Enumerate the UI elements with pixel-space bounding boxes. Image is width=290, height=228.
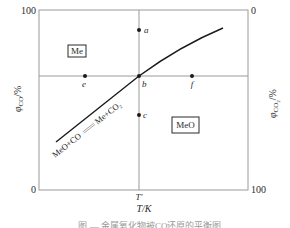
figure-caption: 图 — 金属氧化物被CO还原的平衡图 <box>78 220 221 228</box>
point-f-marker <box>190 74 194 78</box>
diagram-canvas: 100 0 0 100 φCO/% φCO2/% T′ T/K Me MeO a… <box>0 0 290 228</box>
plot-frame <box>39 10 248 190</box>
point-b-label: b <box>142 79 147 89</box>
equilibrium-sign-2 <box>84 125 95 134</box>
region-meo-label: MeO <box>176 120 195 130</box>
left-axis-bottom-label: 0 <box>31 184 36 195</box>
region-me-label: Me <box>71 46 83 56</box>
svg-text:φCO2/%: φCO2/% <box>267 89 281 118</box>
reaction-equation-label: MeO+CO Me+CO₂ <box>50 99 123 159</box>
point-c-label: c <box>143 110 147 120</box>
svg-text:Me+CO₂: Me+CO₂ <box>93 99 124 126</box>
point-e-marker <box>83 74 87 78</box>
right-y-axis-label: φCO2/% <box>267 89 281 118</box>
point-c-marker <box>137 113 141 117</box>
equilibrium-sign <box>83 123 94 132</box>
point-a-marker <box>137 28 141 32</box>
svg-text:φCO/%: φCO/% <box>12 86 25 112</box>
x-axis-label: T/K <box>136 203 152 214</box>
point-a-label: a <box>144 25 149 35</box>
left-y-axis-label: φCO/% <box>12 86 25 112</box>
left-axis-top-label: 100 <box>21 5 36 16</box>
right-axis-bottom-label: 100 <box>251 184 266 195</box>
point-f-label: f <box>191 79 195 89</box>
point-b-marker <box>137 74 141 78</box>
svg-text:MeO+CO: MeO+CO <box>50 131 83 160</box>
t-prime-tick-label: T′ <box>136 192 144 202</box>
right-axis-top-label: 0 <box>251 5 256 16</box>
point-e-label: e <box>82 79 86 89</box>
